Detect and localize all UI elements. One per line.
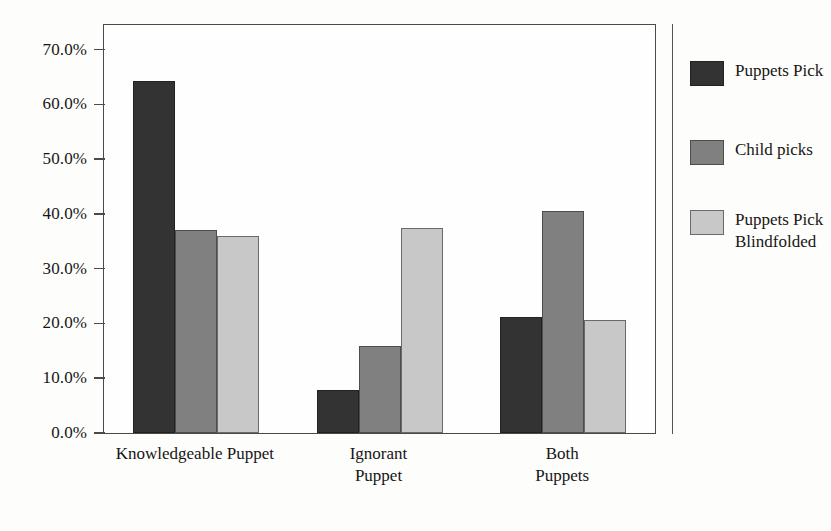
bar-1-0[interactable] — [175, 230, 217, 433]
y-axis-tick-label: 50.0% — [43, 149, 94, 169]
x-axis-label-2: Both Puppets — [447, 443, 677, 488]
y-axis-tick-label: 40.0% — [43, 204, 94, 224]
bar-1-1[interactable] — [359, 346, 401, 433]
legend-label-0: Puppets Pick — [735, 60, 823, 82]
legend-label-2: Puppets Pick Blindfolded — [735, 209, 823, 253]
legend-label-1: Child picks — [735, 139, 813, 161]
bar-1-2[interactable] — [542, 211, 584, 433]
bar-0-0[interactable] — [133, 81, 175, 433]
y-axis-tick: 10.0% — [43, 368, 104, 388]
y-axis-tick-mark — [94, 377, 105, 379]
y-axis-tick-label: 60.0% — [43, 94, 94, 114]
y-axis-tick: 0.0% — [51, 423, 104, 443]
y-axis-tick-mark — [94, 49, 105, 51]
y-axis-tick-label: 0.0% — [51, 423, 94, 443]
y-axis-tick: 30.0% — [43, 259, 104, 279]
y-axis-tick-mark — [94, 323, 105, 325]
legend-item-1[interactable]: Child picks — [690, 139, 813, 165]
legend-swatch-2 — [690, 210, 724, 235]
y-axis-tick-mark — [94, 213, 105, 215]
y-axis-tick: 40.0% — [43, 204, 104, 224]
y-axis-tick-mark — [94, 432, 105, 434]
y-axis-tick-mark — [94, 268, 105, 270]
y-axis-tick-mark — [94, 158, 105, 160]
bar-0-1[interactable] — [317, 390, 359, 433]
legend-item-0[interactable]: Puppets Pick — [690, 60, 823, 86]
chart-legend: Puppets PickChild picksPuppets Pick Blin… — [672, 24, 831, 434]
y-axis-tick: 20.0% — [43, 313, 104, 333]
y-axis-tick: 50.0% — [43, 149, 104, 169]
bar-2-0[interactable] — [217, 236, 259, 433]
bar-chart-figure: 0.0%10.0%20.0%30.0%40.0%50.0%60.0%70.0% … — [0, 0, 831, 531]
plot-area: 0.0%10.0%20.0%30.0%40.0%50.0%60.0%70.0% — [104, 25, 655, 433]
y-axis-tick-label: 20.0% — [43, 313, 94, 333]
bar-2-1[interactable] — [401, 228, 443, 433]
y-axis-tick-label: 10.0% — [43, 368, 94, 388]
bar-0-2[interactable] — [500, 317, 542, 433]
y-axis-tick-label: 30.0% — [43, 259, 94, 279]
plot-frame: 0.0%10.0%20.0%30.0%40.0%50.0%60.0%70.0% — [103, 24, 656, 434]
legend-swatch-0 — [690, 61, 724, 86]
legend-item-2[interactable]: Puppets Pick Blindfolded — [690, 209, 823, 253]
y-axis-tick-mark — [94, 104, 105, 106]
bar-2-2[interactable] — [584, 320, 626, 433]
y-axis-tick-label: 70.0% — [43, 40, 94, 60]
legend-swatch-1 — [690, 140, 724, 165]
y-axis-tick: 60.0% — [43, 94, 104, 114]
y-axis-tick: 70.0% — [43, 40, 104, 60]
